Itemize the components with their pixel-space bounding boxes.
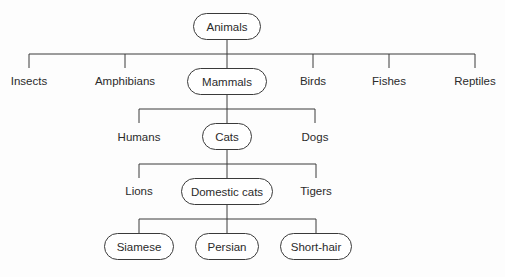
node-dogs: Dogs	[292, 128, 338, 146]
node-humans: Humans	[110, 128, 168, 146]
taxonomy-diagram: Animals Insects Amphibians Mammals Birds…	[0, 0, 505, 277]
node-mammals: Mammals	[187, 68, 267, 95]
node-persian: Persian	[195, 233, 259, 260]
node-animals: Animals	[193, 13, 261, 40]
node-domestic-cats: Domestic cats	[181, 178, 273, 205]
node-birds: Birds	[290, 72, 336, 90]
node-siamese: Siamese	[104, 233, 174, 260]
node-lions: Lions	[114, 182, 164, 200]
node-cats: Cats	[202, 123, 252, 150]
node-amphibians: Amphibians	[90, 72, 160, 90]
node-tigers: Tigers	[292, 182, 340, 200]
node-short-hair: Short-hair	[280, 233, 352, 260]
node-insects: Insects	[0, 72, 58, 90]
node-reptiles: Reptiles	[446, 72, 504, 90]
node-fishes: Fishes	[364, 72, 414, 90]
